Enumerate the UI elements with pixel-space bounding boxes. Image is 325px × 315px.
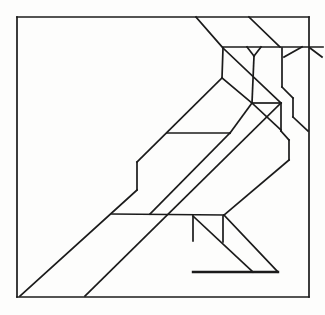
bird-line-drawing-figure [0, 0, 325, 315]
back-ridge-diagonal [137, 78, 222, 162]
eye-stem-vertical [252, 56, 254, 103]
eye-notch-right [254, 47, 261, 56]
face-front-vertical [222, 48, 223, 78]
eye-notch-left [247, 47, 254, 56]
chest-diagonal [230, 103, 252, 133]
wing-lower-diagonal [20, 190, 137, 296]
leg-back-diagonal [224, 215, 278, 272]
belly-diagonal [85, 103, 281, 296]
neck-front-diagonal [222, 78, 252, 103]
back-jog-diagonal [281, 131, 289, 140]
back-to-leg-diagonal [224, 160, 289, 215]
hip-horizontal [112, 214, 224, 215]
crown-diagonal-right [249, 17, 280, 47]
crown-diagonal-left [196, 17, 223, 48]
bird-line-drawing-canvas [0, 0, 325, 315]
wing-trailing-diagonal [150, 133, 230, 214]
nape-to-border-diagonal [293, 117, 308, 131]
nape-jog-diagonal [282, 87, 293, 98]
beak-tip-diagonal [310, 48, 322, 57]
beak-underside-diagonal [284, 47, 302, 57]
